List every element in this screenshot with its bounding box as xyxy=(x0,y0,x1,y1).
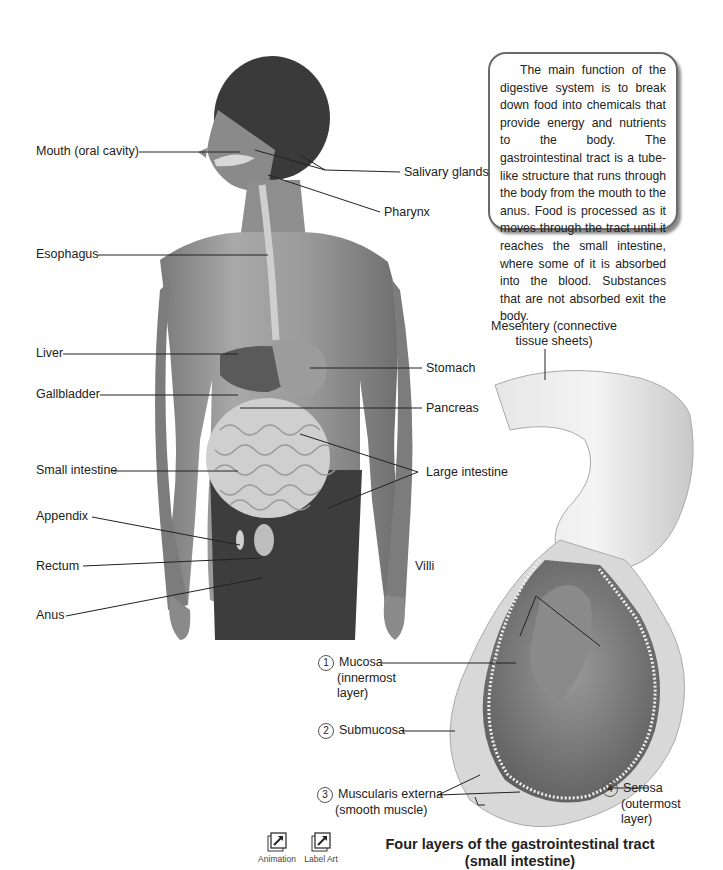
label-layer-muscularis-detail: (smooth muscle) xyxy=(335,803,427,818)
layer-name: Submucosa xyxy=(339,723,405,737)
label-layer-serosa-detail: (outermost layer) xyxy=(621,797,701,827)
layer-number: 2 xyxy=(318,723,334,739)
label-esophagus: Esophagus xyxy=(36,247,99,262)
animation-button[interactable]: Animation xyxy=(253,832,301,864)
info-box: The main function of the digestive syste… xyxy=(488,52,678,230)
label-pancreas: Pancreas xyxy=(426,401,479,416)
label-art-button[interactable]: Label Art xyxy=(297,832,345,864)
layer-name: Serosa xyxy=(623,781,663,795)
layer-number: 1 xyxy=(318,655,334,671)
label-layer-muscularis: 3Muscularis externa xyxy=(317,787,443,803)
caption-line-1: Four layers of the gastrointestinal trac… xyxy=(355,836,685,853)
layer-name: Mucosa xyxy=(339,655,383,669)
label-appendix: Appendix xyxy=(36,509,88,524)
label-stomach: Stomach xyxy=(426,361,475,376)
label-gallbladder: Gallbladder xyxy=(36,387,100,402)
external-link-icon xyxy=(267,832,287,852)
caption-line-2: (small intestine) xyxy=(355,853,685,870)
label-layer-mucosa: 1Mucosa xyxy=(318,655,383,671)
label-layer-serosa: 4Serosa xyxy=(602,781,663,797)
label-layer-submucosa: 2Submucosa xyxy=(318,723,405,739)
label-salivary-glands: Salivary glands xyxy=(404,165,489,180)
label-liver: Liver xyxy=(36,346,63,361)
info-box-text: The main function of the digestive syste… xyxy=(500,63,666,323)
label-layer-mucosa-detail: (innermost layer) xyxy=(337,671,407,701)
animation-button-label: Animation xyxy=(253,854,301,864)
layer-name: Muscularis externa xyxy=(338,787,443,801)
label-mouth: Mouth (oral cavity) xyxy=(36,144,139,159)
label-villi: Villi xyxy=(415,559,434,574)
label-anus: Anus xyxy=(36,608,65,623)
external-link-icon xyxy=(311,832,331,852)
figure-caption: Four layers of the gastrointestinal trac… xyxy=(355,836,685,870)
label-rectum: Rectum xyxy=(36,559,79,574)
layer-number: 4 xyxy=(602,781,618,797)
layer-number: 3 xyxy=(317,787,333,803)
label-art-button-label: Label Art xyxy=(297,854,345,864)
label-pharynx: Pharynx xyxy=(384,205,430,220)
label-large-intestine: Large intestine xyxy=(426,465,508,480)
label-small-intestine: Small intestine xyxy=(36,463,117,478)
label-mesentery: Mesentery (connective tissue sheets) xyxy=(488,319,620,349)
